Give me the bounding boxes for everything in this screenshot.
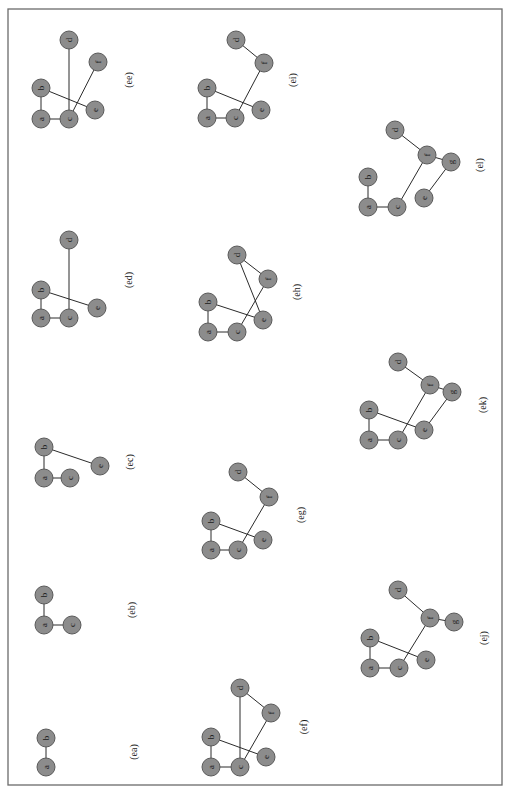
subfigure-caption: (ej) — [478, 631, 490, 645]
graph-node-b: b — [32, 281, 50, 299]
graph-node-c: c — [388, 198, 406, 216]
node-label: a — [203, 330, 213, 334]
node-label: a — [36, 117, 46, 121]
subfigure-ei: abcdef(ei) — [198, 31, 299, 127]
subfigure-ek: abcdefg(ek) — [360, 353, 489, 449]
graph-node-e: e — [91, 457, 109, 475]
node-label: b — [202, 85, 212, 90]
graph-node-b: b — [37, 729, 55, 747]
node-label: e — [419, 196, 429, 200]
graph-node-g: g — [445, 613, 463, 631]
graph-node-c: c — [229, 541, 247, 559]
node-label: f — [264, 496, 274, 499]
graph-node-e: e — [417, 651, 435, 669]
node-label: a — [365, 666, 375, 670]
graph-node-b: b — [361, 629, 379, 647]
node-label: f — [266, 712, 276, 715]
graph-node-a: a — [37, 758, 55, 776]
node-label: b — [364, 407, 374, 412]
subfigure-caption: (ea) — [128, 744, 140, 760]
subfigure-ee: abcdef(ee) — [32, 31, 135, 128]
node-label: f — [263, 278, 273, 281]
graph-node-b: b — [202, 728, 220, 746]
node-label: c — [394, 666, 404, 670]
graph-node-a: a — [202, 758, 220, 776]
graph-node-d: d — [231, 679, 249, 697]
node-label: b — [41, 735, 51, 740]
graph-node-b: b — [359, 168, 377, 186]
graph-node-a: a — [35, 469, 53, 487]
node-label: b — [206, 734, 216, 739]
node-label: g — [449, 619, 459, 624]
graph-node-a: a — [359, 198, 377, 216]
node-label: c — [230, 116, 240, 120]
node-label: c — [64, 316, 74, 320]
graph-node-f: f — [255, 54, 273, 72]
node-label: c — [232, 330, 242, 334]
graph-node-b: b — [32, 79, 50, 97]
node-label: f — [422, 154, 432, 157]
graph-node-f: f — [89, 53, 107, 71]
node-label: a — [202, 116, 212, 120]
graph-node-b: b — [35, 586, 53, 604]
node-label: b — [206, 518, 216, 523]
graph-node-a: a — [202, 541, 220, 559]
subfigure-caption: (ei) — [287, 73, 299, 87]
node-label: f — [259, 62, 269, 65]
graph-node-d: d — [60, 231, 78, 249]
subfigure-caption: (ek) — [477, 397, 489, 413]
subfigure-eg: abcdef(eg) — [202, 463, 307, 559]
graph-node-e: e — [415, 421, 433, 439]
subfigure-caption: (eh) — [291, 284, 303, 300]
graph-node-c: c — [389, 431, 407, 449]
node-label: e — [256, 108, 266, 112]
subfigure-el: abcdefg(el) — [359, 121, 486, 216]
graph-node-c: c — [63, 616, 81, 634]
subfigure-ef: abcdef(ef) — [202, 679, 310, 776]
node-label: e — [421, 658, 431, 662]
node-label: a — [39, 476, 49, 480]
node-label: e — [258, 318, 268, 322]
graph-node-b: b — [35, 438, 53, 456]
node-label: d — [393, 359, 403, 364]
node-label: a — [363, 205, 373, 209]
graph-node-a: a — [35, 616, 53, 634]
graph-node-e: e — [252, 101, 270, 119]
graph-node-a: a — [361, 659, 379, 677]
node-label: a — [36, 316, 46, 320]
node-label: c — [233, 548, 243, 552]
graph-node-d: d — [229, 463, 247, 481]
subfigure-caption: (el) — [474, 158, 486, 172]
graph-node-e: e — [415, 189, 433, 207]
node-label: b — [39, 444, 49, 449]
graph-node-b: b — [198, 79, 216, 97]
graph-node-f: f — [418, 146, 436, 164]
graph-node-d: d — [389, 581, 407, 599]
node-label: e — [90, 108, 100, 112]
node-label: a — [364, 438, 374, 442]
graph-node-g: g — [442, 153, 460, 171]
node-label: a — [206, 765, 216, 769]
node-label: c — [392, 205, 402, 209]
node-label: d — [390, 127, 400, 132]
graph-node-f: f — [421, 609, 439, 627]
node-label: b — [36, 287, 46, 292]
node-label: e — [419, 428, 429, 432]
graph-node-e: e — [88, 299, 106, 317]
node-label: b — [203, 299, 213, 304]
graph-node-e: e — [254, 531, 272, 549]
node-label: e — [92, 306, 102, 310]
node-label: b — [363, 174, 373, 179]
graph-node-c: c — [61, 469, 79, 487]
node-label: d — [393, 587, 403, 592]
graph-node-b: b — [199, 293, 217, 311]
graph-node-e: e — [254, 311, 272, 329]
graph-node-f: f — [262, 704, 280, 722]
graph-node-f: f — [421, 376, 439, 394]
node-label: g — [447, 389, 457, 394]
graph-node-a: a — [198, 109, 216, 127]
graph-node-c: c — [390, 659, 408, 677]
node-label: a — [41, 765, 51, 769]
graph-node-e: e — [257, 748, 275, 766]
node-label: a — [206, 548, 216, 552]
